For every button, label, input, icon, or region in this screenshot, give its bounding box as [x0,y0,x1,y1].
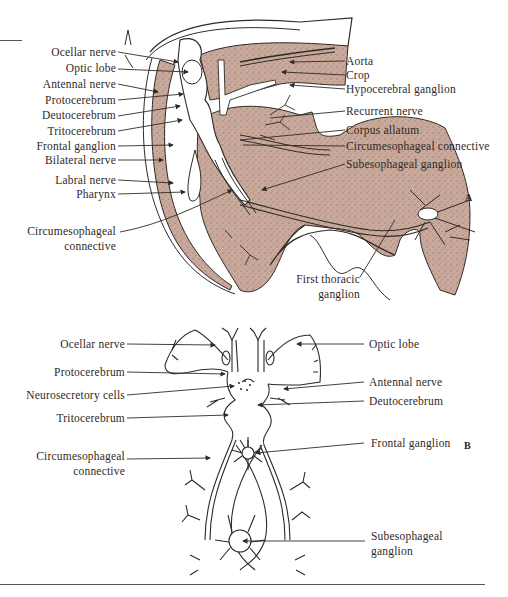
label-protocerebrum-a: Protocerebrum [45,94,116,107]
label-corpus-allatum: Corpus allatum [346,124,419,137]
label-antennal-nerve-b: Antennal nerve [369,376,442,389]
label-subesophageal-ganglion-a: Subesophageal ganglion [346,158,463,171]
label-ocellar-nerve-b: Ocellar nerve [60,338,125,351]
label-pharynx-a: Pharynx [76,188,116,201]
label-tritocerebrum-b: Tritocerebrum [56,412,125,425]
label-hypocerebral-ganglion: Hypocerebral ganglion [346,83,456,96]
label-tritocerebrum-a: Tritocerebrum [47,125,116,138]
label-antennal-nerve-a: Antennal nerve [43,78,116,91]
panel-letter-b: B [464,440,471,451]
label-crop: Crop [346,69,370,82]
label-optic-lobe-b: Optic lobe [369,338,419,351]
label-circumesophageal-b-line1: Circumesophageal [36,450,125,463]
label-frontal-ganglion-a: Frontal ganglion [36,140,116,153]
label-protocerebrum-b: Protocerebrum [54,366,125,379]
label-first-thoracic-line2: ganglion [318,288,360,301]
label-optic-lobe-a: Optic lobe [66,62,116,75]
label-frontal-ganglion-b: Frontal ganglion [371,437,451,450]
label-recurrent-nerve: Recurrent nerve [346,105,423,118]
label-circumesophageal-b-line2: connective [73,465,125,478]
label-neurosecretory-cells: Neurosecretory cells [26,389,125,402]
label-circumesophageal-a-line1: Circumesophageal [27,225,116,238]
panel-b-leaders [127,344,365,541]
label-ocellar-nerve-a: Ocellar nerve [51,46,116,59]
panel-letter-a: A [465,192,472,203]
label-bilateral-nerve-a: Bilateral nerve [45,154,116,167]
panel-b-drawing [165,328,321,575]
label-labral-nerve-a: Labral nerve [55,174,116,187]
label-deutocerebrum-b: Deutocerebrum [369,395,443,408]
label-subesophageal-b-line2: ganglion [371,545,413,558]
insect-brain-figure: Ocellar nerve Optic lobe Antennal nerve … [0,0,508,597]
label-circumesophageal-a-line2: connective [64,240,116,253]
label-circumesophageal-connective-a-right: Circumesophageal connective [346,140,490,153]
label-subesophageal-b-line1: Subesophageal [371,530,443,543]
label-aorta: Aorta [346,55,373,68]
label-deutocerebrum-a: Deutocerebrum [42,109,116,122]
label-first-thoracic-line1: First thoracic [296,273,360,286]
